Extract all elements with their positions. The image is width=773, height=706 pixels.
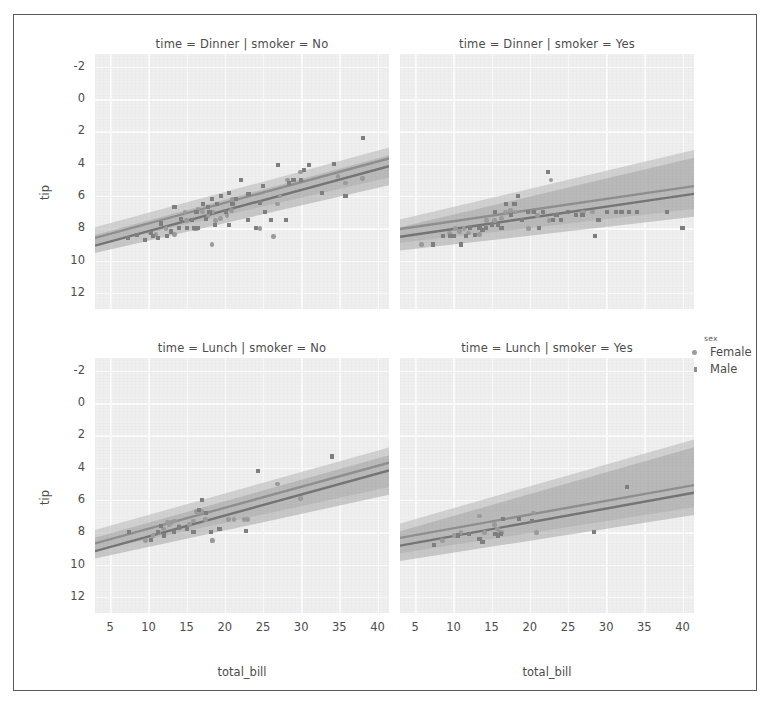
data-point-male — [239, 178, 243, 182]
data-point-female — [513, 210, 518, 215]
y-tick-label: 8 — [49, 524, 85, 538]
data-point-male — [592, 530, 596, 534]
data-point-male — [192, 530, 196, 534]
x-tick-label: 30 — [591, 620, 621, 634]
x-tick-label: 40 — [363, 620, 393, 634]
data-point-male — [258, 200, 262, 204]
data-point-male — [517, 517, 521, 521]
data-point-female — [229, 208, 234, 213]
x-tick-label: 5 — [400, 620, 430, 634]
data-point-male — [227, 223, 231, 227]
regression-overlay — [95, 358, 389, 613]
data-point-male — [541, 210, 545, 214]
regression-overlay — [400, 54, 694, 309]
data-point-male — [499, 226, 503, 230]
data-point-male — [330, 454, 334, 458]
data-point-male — [177, 525, 181, 529]
data-point-male — [246, 192, 250, 196]
data-point-male — [468, 226, 472, 230]
y-tick-label: 4 — [49, 156, 85, 170]
y-tick-label: 8 — [49, 220, 85, 234]
data-point-male — [169, 229, 173, 233]
data-point-male — [680, 226, 684, 230]
data-point-male — [343, 194, 347, 198]
data-point-male — [256, 469, 260, 473]
x-tick-label: 5 — [95, 620, 125, 634]
data-point-male — [149, 538, 153, 542]
data-point-male — [526, 210, 530, 214]
data-point-male — [431, 242, 435, 246]
data-point-male — [499, 532, 503, 536]
data-point-male — [473, 233, 477, 237]
data-point-female — [210, 242, 215, 247]
data-point-male — [332, 162, 336, 166]
data-point-male — [287, 181, 291, 185]
x-tick-label: 25 — [248, 620, 278, 634]
data-point-male — [441, 234, 445, 238]
data-point-male — [162, 533, 166, 537]
data-point-male — [196, 226, 200, 230]
data-point-male — [194, 210, 198, 214]
data-point-male — [627, 210, 631, 214]
panel-title-1: time = Dinner | smoker = Yes — [400, 37, 694, 51]
data-point-female — [172, 519, 177, 524]
data-point-male — [580, 213, 584, 217]
data-point-female — [275, 482, 280, 487]
data-point-female — [526, 226, 531, 231]
data-point-male — [143, 238, 147, 242]
y-tick-label: 0 — [49, 91, 85, 105]
data-point-female — [191, 519, 196, 524]
data-point-female — [499, 216, 504, 221]
data-point-male — [596, 218, 600, 222]
data-point-male — [172, 205, 176, 209]
x-tick-label: 20 — [210, 620, 240, 634]
data-point-male — [504, 202, 508, 206]
data-point-male — [284, 218, 288, 222]
data-point-male — [574, 213, 578, 217]
data-point-male — [159, 221, 163, 225]
y-tick-label: 0 — [49, 395, 85, 409]
data-point-male — [432, 543, 436, 547]
data-point-male — [501, 517, 505, 521]
data-point-male — [215, 202, 219, 206]
x-tick-label: 20 — [515, 620, 545, 634]
plot-panel-3[interactable] — [400, 358, 694, 613]
data-point-male — [635, 210, 639, 214]
data-point-female — [184, 218, 189, 223]
data-point-male — [554, 213, 558, 217]
data-point-male — [619, 210, 623, 214]
data-point-male — [165, 234, 169, 238]
data-point-male — [516, 194, 520, 198]
data-point-male — [484, 226, 488, 230]
data-point-female — [275, 202, 280, 207]
plot-panel-2[interactable] — [95, 358, 389, 613]
x-axis-label-col-1: total_bill — [487, 665, 607, 679]
data-point-male — [190, 218, 194, 222]
y-tick-label: 4 — [49, 460, 85, 474]
data-point-female — [457, 229, 462, 234]
data-point-female — [419, 242, 424, 247]
y-tick-label: 6 — [49, 492, 85, 506]
x-tick-label: 40 — [668, 620, 698, 634]
data-point-male — [234, 197, 238, 201]
data-point-male — [177, 226, 181, 230]
data-point-female — [482, 530, 487, 535]
plot-panel-1[interactable] — [400, 54, 694, 309]
data-point-male — [151, 234, 155, 238]
data-point-male — [537, 226, 541, 230]
data-point-male — [291, 178, 295, 182]
data-point-male — [593, 234, 597, 238]
confidence-band-1 — [95, 455, 389, 558]
data-point-female — [271, 234, 276, 239]
plot-panel-0[interactable] — [95, 54, 389, 309]
data-point-female — [218, 216, 223, 221]
legend-label-female: Female — [710, 345, 752, 359]
data-point-male — [156, 236, 160, 240]
data-point-male — [204, 217, 208, 221]
data-point-male — [246, 218, 250, 222]
data-point-male — [126, 236, 130, 240]
data-point-male — [159, 524, 163, 528]
data-point-male — [459, 242, 463, 246]
x-tick-label: 10 — [133, 620, 163, 634]
data-point-male — [207, 210, 211, 214]
